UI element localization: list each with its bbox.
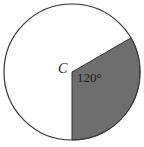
angle-label: 120°: [77, 70, 102, 85]
center-label: C: [58, 61, 68, 76]
circle-diagram: C 120°: [0, 0, 144, 147]
